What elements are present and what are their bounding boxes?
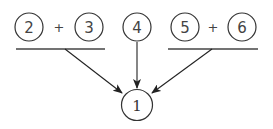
node-3: 3 xyxy=(75,13,103,41)
target-node-label: 1 xyxy=(132,97,142,115)
node-6: 6 xyxy=(228,13,256,41)
group-left: 2 + 3 xyxy=(15,13,105,49)
group-right: 5 + 6 xyxy=(168,13,258,49)
edge-right-to-target-arrow xyxy=(152,49,212,93)
node-6-label: 6 xyxy=(237,19,247,37)
node-5-label: 5 xyxy=(180,19,190,37)
plus-operator-right: + xyxy=(208,20,219,35)
target-node-1: 1 xyxy=(122,90,153,121)
node-5: 5 xyxy=(171,13,199,41)
edge-left-to-target-arrow xyxy=(65,49,122,93)
diagram-canvas: 2 + 3 4 5 + 6 1 xyxy=(0,0,273,129)
node-2-label: 2 xyxy=(24,19,34,37)
node-4-label: 4 xyxy=(132,19,142,37)
plus-operator-left: + xyxy=(54,20,65,35)
node-2: 2 xyxy=(15,13,43,41)
node-4: 4 xyxy=(123,13,151,41)
node-3-label: 3 xyxy=(84,19,94,37)
group-middle: 4 xyxy=(123,13,151,41)
